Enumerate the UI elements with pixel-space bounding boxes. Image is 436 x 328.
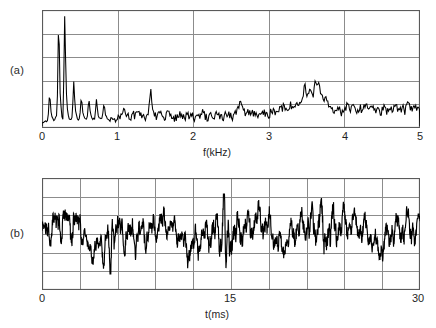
panel-a-xtick-3: 3 [266,130,272,142]
waveform-svg [42,178,420,290]
panel-a-xtick-0: 0 [39,130,45,142]
spectrum-svg [42,10,420,128]
panel-b-xtick-0: 0 [39,292,45,304]
panel-a-plot [42,10,420,128]
panel-a-xtick-4: 4 [342,130,348,142]
panel-a-xtick-1: 1 [114,130,120,142]
panel-a-label: (a) [10,64,24,76]
figure-container: (a) 0 1 2 3 4 5 f(kHz) (b) 0 15 30 t(ms) [0,0,436,328]
panel-a-xtick-5: 5 [417,130,423,142]
panel-a-xtick-2: 2 [190,130,196,142]
panel-b-xtick-30: 30 [412,292,424,304]
panel-b-label: (b) [10,227,24,239]
panel-b: (b) 0 15 30 t(ms) [0,164,436,328]
panel-b-axis-title: t(ms) [205,308,229,320]
panel-a-axis-title: f(kHz) [203,146,231,158]
panel-a: (a) 0 1 2 3 4 5 f(kHz) [0,0,436,164]
panel-b-plot [42,178,420,290]
panel-b-xtick-15: 15 [224,292,236,304]
